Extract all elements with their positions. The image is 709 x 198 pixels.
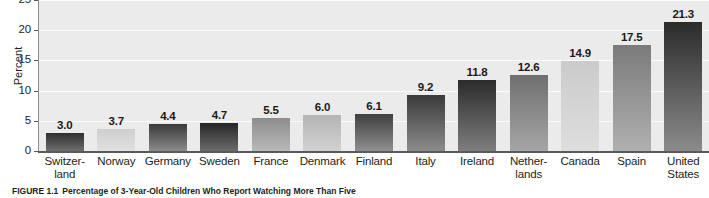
figure-bar-chart: Percent 0510152025 3.03.74.44.75.56.06.1… bbox=[0, 0, 709, 198]
bar-value-label: 5.5 bbox=[263, 104, 278, 116]
figure-caption: FIGURE 1.1Percentage of 3-Year-Old Child… bbox=[12, 186, 702, 196]
bar-group[interactable]: 11.8 bbox=[451, 0, 503, 151]
x-axis-label-line: lands bbox=[503, 168, 555, 181]
bar-value-label: 4.4 bbox=[160, 110, 175, 122]
bar-value-label: 9.2 bbox=[418, 81, 433, 93]
bar[interactable] bbox=[252, 118, 290, 151]
bar[interactable] bbox=[46, 133, 84, 151]
bar-series: 3.03.74.44.75.56.06.19.211.812.614.917.5… bbox=[39, 0, 709, 151]
bar-value-label: 6.1 bbox=[366, 100, 381, 112]
x-axis-label-line: Spain bbox=[606, 155, 658, 168]
bar-group[interactable]: 9.2 bbox=[400, 0, 452, 151]
figure-caption-text: Percentage of 3-Year-Old Children Who Re… bbox=[62, 186, 355, 196]
x-axis-label-line: Denmark bbox=[297, 155, 349, 168]
bar-group[interactable]: 21.3 bbox=[657, 0, 709, 151]
x-axis-label-line: Finland bbox=[348, 155, 400, 168]
bar[interactable] bbox=[613, 45, 651, 151]
bar-value-label: 11.8 bbox=[467, 66, 488, 78]
x-axis-label: France bbox=[245, 155, 297, 168]
bar[interactable] bbox=[303, 115, 341, 151]
bar-value-label: 21.3 bbox=[672, 8, 694, 20]
bar-value-label: 12.6 bbox=[518, 61, 540, 73]
x-axis-label: Sweden bbox=[194, 155, 246, 168]
bar-value-label: 17.5 bbox=[621, 31, 643, 43]
x-axis-label-line: Switzer- bbox=[39, 155, 91, 168]
x-axis-label: UnitedStates bbox=[657, 155, 709, 180]
bar[interactable] bbox=[149, 124, 187, 151]
y-axis-ticks: 0510152025 bbox=[0, 0, 38, 152]
bar-value-label: 3.0 bbox=[57, 119, 72, 131]
x-axis-label: Denmark bbox=[297, 155, 349, 168]
x-axis-label-line: Italy bbox=[400, 155, 452, 168]
bar[interactable] bbox=[355, 114, 393, 151]
y-axis-tick-label: 15 bbox=[1, 53, 31, 65]
bar-group[interactable]: 3.7 bbox=[91, 0, 143, 151]
y-axis-tick-label: 10 bbox=[1, 84, 31, 96]
x-axis-label: Norway bbox=[91, 155, 143, 168]
y-axis-tick-label: 5 bbox=[1, 114, 31, 126]
x-axis-label: Ireland bbox=[451, 155, 503, 168]
x-axis-line bbox=[38, 151, 709, 153]
y-axis-tick-label: 0 bbox=[1, 144, 31, 156]
x-axis-category-labels: Switzer-landNorwayGermanySwedenFranceDen… bbox=[39, 155, 709, 183]
bar-group[interactable]: 6.1 bbox=[348, 0, 400, 151]
x-axis-label: Nether-lands bbox=[503, 155, 555, 180]
x-axis-label-line: land bbox=[39, 168, 91, 181]
bar-value-label: 4.7 bbox=[212, 109, 227, 121]
bar-group[interactable]: 4.7 bbox=[194, 0, 246, 151]
bar-group[interactable]: 5.5 bbox=[245, 0, 297, 151]
bar-group[interactable]: 6.0 bbox=[297, 0, 349, 151]
x-axis-label: Germany bbox=[142, 155, 194, 168]
x-axis-label-line: Germany bbox=[142, 155, 194, 168]
x-axis-label-line: Ireland bbox=[451, 155, 503, 168]
bar[interactable] bbox=[458, 80, 496, 151]
bar-value-label: 3.7 bbox=[109, 115, 124, 127]
bar-value-label: 14.9 bbox=[569, 47, 591, 59]
x-axis-label: Italy bbox=[400, 155, 452, 168]
x-axis-label-line: Canada bbox=[554, 155, 606, 168]
bar-group[interactable]: 17.5 bbox=[606, 0, 658, 151]
x-axis-label: Finland bbox=[348, 155, 400, 168]
x-axis-label: Spain bbox=[606, 155, 658, 168]
bar-value-label: 6.0 bbox=[315, 101, 330, 113]
bar-group[interactable]: 3.0 bbox=[39, 0, 91, 151]
x-axis-label-line: Sweden bbox=[194, 155, 246, 168]
x-axis-label-line: Nether- bbox=[503, 155, 555, 168]
x-axis-label: Switzer-land bbox=[39, 155, 91, 180]
bar[interactable] bbox=[97, 129, 135, 151]
bar[interactable] bbox=[510, 75, 548, 151]
x-axis-label-line: United bbox=[657, 155, 709, 168]
bar-group[interactable]: 4.4 bbox=[142, 0, 194, 151]
bar[interactable] bbox=[664, 22, 702, 151]
x-axis-label-line: Norway bbox=[91, 155, 143, 168]
x-axis-label: Canada bbox=[554, 155, 606, 168]
bar-group[interactable]: 12.6 bbox=[503, 0, 555, 151]
y-axis-tick-label: 20 bbox=[1, 23, 31, 35]
x-axis-label-line: France bbox=[245, 155, 297, 168]
bar[interactable] bbox=[200, 123, 238, 151]
bar-group[interactable]: 14.9 bbox=[554, 0, 606, 151]
bar[interactable] bbox=[561, 61, 599, 151]
figure-caption-number: FIGURE 1.1 bbox=[12, 186, 58, 196]
y-axis-tick-label: 25 bbox=[1, 0, 31, 5]
bar[interactable] bbox=[407, 95, 445, 151]
x-axis-label-line: States bbox=[657, 168, 709, 181]
